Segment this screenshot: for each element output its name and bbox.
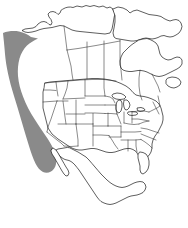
region-mexico	[56, 148, 146, 205]
region-newfoundland	[166, 77, 181, 88]
lake-michigan	[116, 100, 122, 113]
border-northern-canada-provinces	[67, 41, 120, 50]
border-ontario-quebec	[139, 70, 142, 100]
region-contiguous-united-states	[43, 79, 163, 159]
border-alaska-yukon	[64, 26, 67, 50]
region-alaska	[22, 6, 115, 35]
border-bc-alberta	[67, 50, 73, 80]
map-figure: North America outline map with Pacific c…	[0, 0, 188, 228]
north-america-map: North America outline map with Pacific c…	[0, 0, 188, 228]
region-eastern-canada	[120, 39, 182, 77]
region-northern-canada	[113, 7, 182, 41]
